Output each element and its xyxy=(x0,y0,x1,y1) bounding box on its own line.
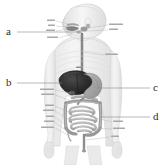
question-label-d: d xyxy=(153,111,159,122)
rectum xyxy=(82,135,86,152)
digestive-system-diagram xyxy=(0,0,166,165)
head-profile xyxy=(63,4,106,38)
question-label-b: b xyxy=(6,77,12,88)
question-label-c: c xyxy=(153,82,158,93)
question-label-a: a xyxy=(6,26,11,37)
organ-label-text-liver xyxy=(76,67,83,68)
organ-label-text-head-left xyxy=(46,20,58,38)
